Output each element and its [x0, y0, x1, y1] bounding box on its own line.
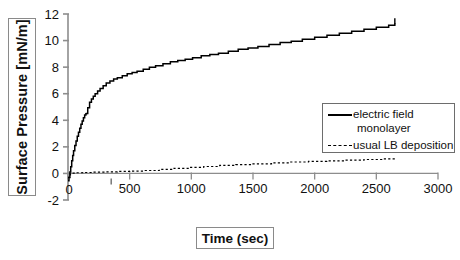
y-tick-label: 10: [45, 33, 59, 48]
x-axis-title: Time (sec): [202, 231, 269, 246]
x-tick-label: 1500: [239, 181, 268, 196]
x-tick-label: 1000: [177, 181, 206, 196]
legend-item-electric-field-monolayer: electric field: [327, 108, 454, 122]
y-tick-label: 4: [52, 113, 59, 128]
x-tick-label: 3000: [424, 181, 453, 196]
legend-label-electric-field: electric field: [353, 108, 414, 121]
legend-swatch-solid-line: [327, 109, 353, 121]
y-tick-label: -2: [47, 193, 59, 208]
x-tick-label: 2000: [300, 181, 329, 196]
x-axis-title-box: Time (sec): [196, 227, 274, 249]
y-tick-label: 8: [52, 60, 59, 75]
chart-figure: Surface Pressure [mN/m] -202468101250010…: [0, 0, 460, 260]
legend-swatch-dashed-line: [327, 140, 353, 152]
legend-label-usual-lb-deposition: usual LB deposition: [353, 139, 453, 152]
x-tick-label: 2500: [362, 181, 391, 196]
y-tick-label: 2: [52, 139, 59, 154]
y-tick-label: 0: [52, 166, 59, 181]
series-line-usual-lb-deposition: [68, 159, 395, 178]
legend-label-monolayer: monolayer: [357, 122, 454, 135]
x-tick-label-zero: 0: [65, 182, 72, 197]
y-tick-label: 12: [45, 7, 59, 22]
y-tick-label: 6: [52, 86, 59, 101]
legend: electric field monolayer usual LB deposi…: [322, 103, 455, 153]
legend-item-usual-lb-deposition: usual LB deposition: [327, 139, 454, 153]
x-tick-label: 500: [119, 181, 141, 196]
